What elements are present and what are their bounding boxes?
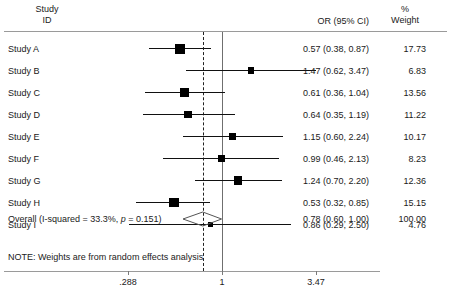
weight-value: 8.23 <box>378 148 426 170</box>
header-study-line2: ID <box>27 15 67 26</box>
effect-size-marker <box>218 155 225 162</box>
study-row: Study F0.99 (0.46, 2.13)8.23 <box>0 148 451 170</box>
effect-size-marker <box>229 133 236 140</box>
or-ci-value: 1.24 (0.70, 2.20) <box>281 170 369 192</box>
study-row: Study D0.64 (0.35, 1.19)11.22 <box>0 104 451 126</box>
study-label: Study G <box>8 170 41 192</box>
overall-weight-value: 100.00 <box>378 208 426 230</box>
effect-size-marker <box>248 67 254 73</box>
or-ci-value: 1.15 (0.60, 2.24) <box>281 126 369 148</box>
study-row: Study B1.47 (0.62, 3.47)6.83 <box>0 60 451 82</box>
weight-value: 12.36 <box>378 170 426 192</box>
header-weight-line2: Weight <box>378 15 432 26</box>
overall-diamond <box>181 211 224 227</box>
effect-size-marker <box>169 198 178 207</box>
axis-rule <box>4 271 380 272</box>
or-ci-value: 0.61 (0.36, 1.04) <box>281 82 369 104</box>
effect-size-marker <box>184 111 192 119</box>
study-row: Study C0.61 (0.36, 1.04)13.56 <box>0 82 451 104</box>
weight-value: 13.56 <box>378 82 426 104</box>
effect-size-marker <box>180 88 189 97</box>
effect-size-marker <box>175 44 185 54</box>
weight-value: 6.83 <box>378 60 426 82</box>
study-row: Study G1.24 (0.70, 2.20)12.36 <box>0 170 451 192</box>
or-ci-value: 0.99 (0.46, 2.13) <box>281 148 369 170</box>
study-label: Study F <box>8 148 39 170</box>
study-row: Study A0.57 (0.38, 0.87)17.73 <box>0 38 451 60</box>
axis-tick <box>128 271 129 275</box>
or-ci-value: 1.47 (0.62, 3.47) <box>281 60 369 82</box>
weight-value: 11.22 <box>378 104 426 126</box>
or-ci-value: 0.57 (0.38, 0.87) <box>281 38 369 60</box>
forest-plot: Study ID OR (95% CI) % Weight Study A0.5… <box>0 0 451 292</box>
header-study-id: Study ID <box>27 4 67 26</box>
study-label: Study D <box>8 104 40 126</box>
diamond-shape <box>183 212 222 226</box>
header-weight: % Weight <box>378 4 432 26</box>
header-rule <box>4 31 447 32</box>
note-text: NOTE: Weights are from random effects an… <box>8 251 203 263</box>
study-label: Study E <box>8 126 40 148</box>
overall-label: Overall (I-squared = 33.3%, p = 0.151) <box>8 208 162 230</box>
axis-tick-label: .288 <box>98 277 158 288</box>
axis-tick <box>222 271 223 275</box>
study-label: Study A <box>8 38 39 60</box>
or-ci-value: 0.64 (0.35, 1.19) <box>281 104 369 126</box>
axis-tick-label: 3.47 <box>286 277 346 288</box>
effect-size-marker <box>234 176 242 184</box>
axis-tick-label: 1 <box>192 277 252 288</box>
study-label: Study C <box>8 82 40 104</box>
weight-value: 17.73 <box>378 38 426 60</box>
study-row: Study E1.15 (0.60, 2.24)10.17 <box>0 126 451 148</box>
header-weight-line1: % <box>378 4 432 15</box>
header-or-ci: OR (95% CI) <box>281 16 369 27</box>
axis-tick <box>316 271 317 275</box>
overall-or-value: 0.78 (0.60, 1.00) <box>281 208 369 230</box>
header-study-line1: Study <box>27 4 67 15</box>
study-label: Study B <box>8 60 40 82</box>
weight-value: 10.17 <box>378 126 426 148</box>
